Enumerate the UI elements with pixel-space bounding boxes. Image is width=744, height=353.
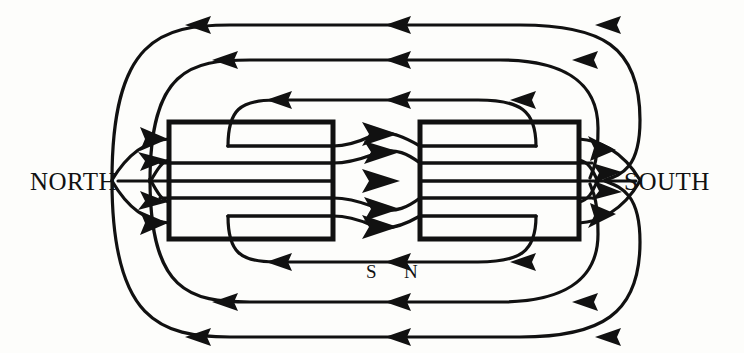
arrow-gap-4 xyxy=(364,197,400,221)
label-south: SOUTH xyxy=(624,168,710,195)
arrow-top2-right xyxy=(572,51,598,69)
label-inner-north: N xyxy=(404,261,418,282)
arrow-south-1 xyxy=(588,136,616,161)
arrow-north-2 xyxy=(138,152,168,171)
label-north: NORTH xyxy=(30,168,117,195)
arrow-south-4 xyxy=(588,203,616,228)
arrow-top1-right xyxy=(595,16,621,34)
arrow-gap-5 xyxy=(362,215,398,239)
arrow-south-3 xyxy=(592,181,622,200)
figure-canvas: NORTH SOUTH S N xyxy=(0,0,744,353)
arrow-bot1-right xyxy=(595,328,621,346)
magnetic-field-diagram: NORTH SOUTH S N xyxy=(0,0,744,353)
arrow-gap-3 xyxy=(362,169,400,193)
gap-arrows xyxy=(362,122,400,239)
arrow-bot2-right xyxy=(572,293,598,311)
arrow-gap-2 xyxy=(364,141,400,164)
label-inner-south: S xyxy=(366,261,377,282)
arrow-north-3 xyxy=(138,191,168,210)
